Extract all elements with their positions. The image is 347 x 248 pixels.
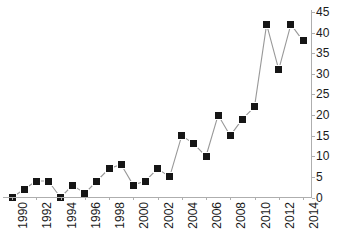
y-axis-tick-label: 10 bbox=[316, 150, 329, 162]
x-axis-tick-mark bbox=[61, 197, 62, 200]
data-point bbox=[214, 111, 223, 120]
x-axis-tick-label: 2008 bbox=[235, 202, 247, 229]
y-axis-tick-mark bbox=[312, 74, 315, 75]
x-axis-tick-labels: 1990199219941996199820002002200420062008… bbox=[0, 200, 313, 248]
x-axis-tick-mark bbox=[279, 197, 280, 200]
y-axis-tick-label: 15 bbox=[316, 130, 329, 142]
x-axis-tick-mark bbox=[85, 197, 86, 200]
x-axis-tick-label: 1996 bbox=[90, 202, 102, 229]
data-point bbox=[92, 177, 101, 186]
data-point bbox=[20, 185, 29, 194]
y-axis-tick-mark bbox=[312, 136, 315, 137]
data-point bbox=[32, 177, 41, 186]
y-axis-tick-mark bbox=[312, 94, 315, 95]
y-axis-tick-mark bbox=[312, 53, 315, 54]
x-axis-tick-label: 1990 bbox=[17, 202, 29, 229]
x-axis-tick-label: 2010 bbox=[260, 202, 272, 229]
data-point bbox=[68, 181, 77, 190]
y-axis-tick-label: 30 bbox=[316, 68, 329, 80]
data-point bbox=[286, 20, 295, 29]
y-axis-tick-label: 45 bbox=[316, 6, 329, 18]
data-point bbox=[299, 36, 308, 45]
x-axis-tick-mark bbox=[158, 197, 159, 200]
y-axis-tick-label: 25 bbox=[316, 88, 329, 100]
x-axis-tick-mark bbox=[206, 197, 207, 200]
data-point bbox=[226, 131, 235, 140]
data-point bbox=[189, 139, 198, 148]
data-point bbox=[165, 172, 174, 181]
x-axis-tick-mark bbox=[109, 197, 110, 200]
x-axis-tick-mark bbox=[182, 197, 183, 200]
y-axis-tick-mark bbox=[312, 198, 315, 199]
x-axis-tick-mark bbox=[255, 197, 256, 200]
plot-area bbox=[0, 0, 313, 200]
y-axis-tick-mark bbox=[312, 177, 315, 178]
x-axis-tick-label: 1992 bbox=[41, 202, 53, 229]
data-point bbox=[274, 65, 283, 74]
y-axis-tick-mark bbox=[312, 33, 315, 34]
y-axis-tick-label: 5 bbox=[316, 171, 323, 183]
x-axis-tick-label: 1998 bbox=[114, 202, 126, 229]
x-axis-tick-label: 2014 bbox=[308, 202, 320, 229]
data-point bbox=[105, 164, 114, 173]
x-axis-tick-mark bbox=[230, 197, 231, 200]
y-axis-tick-label: 40 bbox=[316, 27, 329, 39]
data-point bbox=[129, 181, 138, 190]
x-axis-tick-label: 2004 bbox=[187, 202, 199, 229]
x-axis-tick-mark bbox=[133, 197, 134, 200]
data-point bbox=[117, 160, 126, 169]
line-chart: 051015202530354045 199019921994199619982… bbox=[0, 0, 347, 248]
y-axis-tick-mark bbox=[312, 12, 315, 13]
data-point bbox=[44, 177, 53, 186]
y-axis-tick-labels: 051015202530354045 bbox=[316, 0, 347, 210]
y-axis-tick-label: 35 bbox=[316, 47, 329, 59]
x-axis-tick-label: 2006 bbox=[211, 202, 223, 229]
x-axis-tick-label: 2012 bbox=[284, 202, 296, 229]
data-point bbox=[262, 20, 271, 29]
x-axis-tick-label: 2000 bbox=[138, 202, 150, 229]
data-point bbox=[250, 102, 259, 111]
data-point bbox=[202, 152, 211, 161]
y-axis-line bbox=[311, 10, 312, 198]
data-point bbox=[238, 115, 247, 124]
y-axis-tick-mark bbox=[312, 156, 315, 157]
data-point bbox=[177, 131, 186, 140]
x-axis-tick-mark bbox=[12, 197, 13, 200]
y-axis-tick-label: 20 bbox=[316, 109, 329, 121]
x-axis-tick-label: 2002 bbox=[163, 202, 175, 229]
x-axis-tick-mark bbox=[303, 197, 304, 200]
x-axis-tick-mark bbox=[36, 197, 37, 200]
data-point bbox=[141, 177, 150, 186]
y-axis-tick-mark bbox=[312, 115, 315, 116]
x-axis-tick-label: 1994 bbox=[66, 202, 78, 229]
data-point bbox=[153, 164, 162, 173]
